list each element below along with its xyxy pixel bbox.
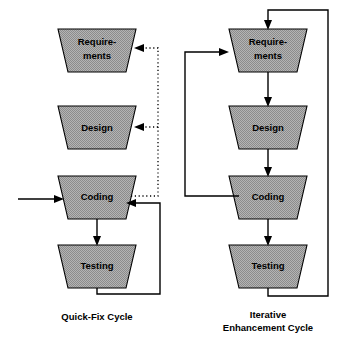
testing-label-iterative: Testing	[251, 260, 284, 271]
stage-requirements-iterative[interactable]: Require- ments	[229, 29, 307, 72]
arrowhead-coding-feedback-iterative	[219, 48, 229, 56]
requirements-label-line2-iterative: ments	[254, 50, 282, 61]
requirements-label-line1-quickfix: Require-	[78, 36, 117, 47]
connector-coding-to-testing-iterative	[264, 219, 272, 246]
design-label-quickfix: Design	[81, 122, 113, 133]
arrowhead-dotted-to-requirements-quickfix	[134, 44, 144, 52]
stage-design-quickfix[interactable]: Design	[58, 106, 136, 149]
connector-coding-to-testing-quickfix	[93, 219, 101, 246]
stage-requirements-quickfix[interactable]: Require- ments	[58, 29, 136, 72]
stage-testing-iterative[interactable]: Testing	[229, 245, 307, 288]
connector-coding-feedback-to-requirements-iterative	[185, 48, 239, 196]
diagram-canvas: Require- ments Design Coding Testing	[0, 0, 342, 354]
stage-coding-quickfix[interactable]: Coding	[58, 176, 136, 219]
caption-iterative-line1: Iterative	[250, 309, 286, 320]
design-label-iterative: Design	[252, 122, 284, 133]
requirements-label-line1-iterative: Require-	[249, 36, 288, 47]
requirements-label-line2-quickfix: ments	[83, 50, 111, 61]
testing-label-quickfix: Testing	[80, 260, 113, 271]
stage-coding-iterative[interactable]: Coding	[229, 176, 307, 219]
coding-label-iterative: Coding	[252, 191, 285, 202]
stage-testing-quickfix[interactable]: Testing	[58, 245, 136, 288]
stage-design-iterative[interactable]: Design	[229, 106, 307, 149]
caption-quick-fix-cycle: Quick-Fix Cycle	[61, 311, 132, 322]
coding-label-quickfix: Coding	[81, 191, 114, 202]
connector-design-to-coding-iterative	[264, 149, 272, 177]
connector-coding-dotted-feedback-quickfix	[131, 44, 158, 196]
quick-fix-cycle-diagram: Require- ments Design Coding Testing	[18, 29, 160, 322]
connector-requirements-to-design-iterative	[264, 72, 272, 107]
caption-iterative-line2: Enhancement Cycle	[223, 322, 313, 333]
arrowhead-dotted-to-design-quickfix	[134, 123, 144, 131]
connector-external-input-to-coding-quickfix	[18, 195, 64, 203]
iterative-enhancement-cycle-diagram: Require- ments Design Coding Testing	[185, 10, 328, 333]
process-models-figure: Require- ments Design Coding Testing	[0, 0, 342, 354]
